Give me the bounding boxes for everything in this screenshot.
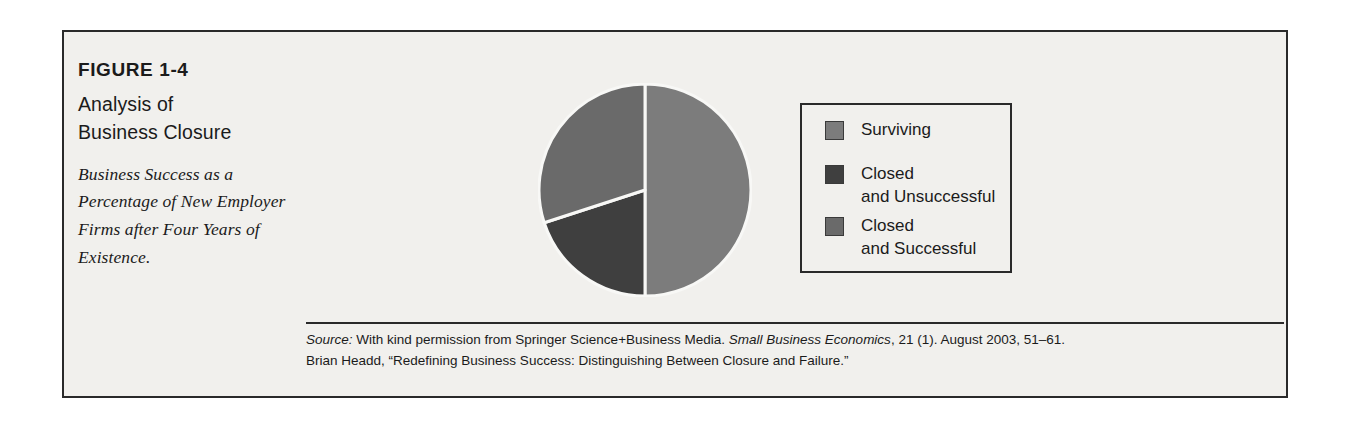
pie-chart-svg (538, 83, 752, 297)
figure-title-line-2: Business Closure (78, 119, 290, 147)
source-divider-rule (306, 322, 1284, 324)
source-journal-title: Small Business Economics (729, 332, 891, 347)
legend-label-closed-successful: Closed and Successful (861, 215, 976, 260)
source-note: Source: With kind permission from Spring… (306, 330, 1306, 372)
figure-container: FIGURE 1-4 Analysis of Business Closure … (0, 0, 1351, 431)
source-line-1-part-b: , 21 (1). August 2003, 51–61. (891, 332, 1065, 347)
figure-subtitle: Business Success as a Percentage of New … (78, 161, 290, 272)
legend-label-surviving: Surviving (861, 119, 931, 142)
legend-item-closed-unsuccessful[interactable]: Closed and Unsuccessful (825, 163, 995, 208)
figure-number: FIGURE 1-4 (78, 58, 290, 82)
source-prefix: Source: (306, 332, 353, 347)
legend-swatch-surviving (825, 121, 844, 140)
legend-swatch-closed-successful (825, 217, 844, 236)
source-line-1-part-a: With kind permission from Springer Scien… (353, 332, 729, 347)
source-line-1: Source: With kind permission from Spring… (306, 330, 1306, 351)
pie-slice-group (539, 84, 751, 296)
legend-swatch-closed-unsuccessful (825, 165, 844, 184)
pie-chart (538, 83, 752, 297)
legend-item-closed-successful[interactable]: Closed and Successful (825, 215, 976, 260)
legend-item-surviving[interactable]: Surviving (825, 119, 931, 142)
figure-title-line-1: Analysis of (78, 91, 290, 119)
chart-legend: Surviving Closed and Unsuccessful Closed… (800, 103, 1012, 273)
legend-label-closed-unsuccessful: Closed and Unsuccessful (861, 163, 995, 208)
pie-slice-surviving[interactable] (645, 84, 751, 296)
figure-caption-block: FIGURE 1-4 Analysis of Business Closure … (78, 58, 290, 271)
source-line-2: Brian Headd, “Redefining Business Succes… (306, 351, 1306, 372)
